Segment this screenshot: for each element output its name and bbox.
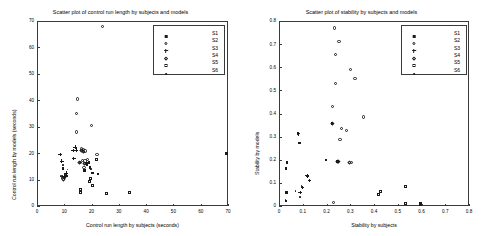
- y-axis-tick: [279, 90, 282, 91]
- data-point-s2: [349, 68, 352, 71]
- data-point-s5: [377, 193, 380, 196]
- y-axis-tick: [37, 127, 40, 128]
- y-axis-tick-label: 10: [13, 177, 34, 182]
- x-axis-label: Control run length by subjects (seconds): [37, 222, 228, 228]
- data-point-s2: [334, 82, 337, 85]
- x-axis-tick: [398, 204, 399, 207]
- x-axis-tick: [445, 204, 446, 207]
- data-point-s1: [62, 167, 65, 170]
- figure-window: Scatter plot of control run length by su…: [0, 0, 482, 236]
- x-axis-tick: [201, 204, 202, 207]
- marker-glyph: [413, 73, 415, 75]
- legend-item-s6: S6: [402, 66, 466, 74]
- data-point-s5: [79, 191, 82, 194]
- x-axis-tick-label: 50: [159, 209, 187, 214]
- data-point-s2: [101, 25, 104, 28]
- legend-label: S2: [212, 37, 218, 43]
- data-point-s3: [60, 159, 64, 163]
- data-point-s2: [331, 105, 334, 108]
- x-axis-label: Stability by subjects: [279, 222, 469, 228]
- chart-control-run-length: Scatter plot of control run length by su…: [0, 0, 241, 236]
- data-point-s3: [305, 174, 309, 178]
- data-point-s1: [91, 172, 94, 175]
- data-point-s3: [308, 179, 312, 183]
- data-point-s1: [83, 169, 86, 172]
- x-axis-tick: [92, 204, 93, 207]
- data-point-s6: [295, 190, 297, 192]
- data-point-s5: [95, 158, 98, 161]
- data-point-s2: [353, 77, 356, 80]
- x-axis-tick: [374, 204, 375, 207]
- x-axis-tick-label: 70: [214, 209, 242, 214]
- data-point-s5: [128, 191, 131, 194]
- y-axis-tick: [37, 100, 40, 101]
- data-point-s1: [97, 173, 100, 176]
- legend-label: S2: [454, 37, 460, 43]
- x-axis-tick: [469, 204, 470, 207]
- y-axis-tick: [279, 21, 282, 22]
- y-axis-tick-label: 0: [255, 203, 276, 208]
- y-axis-tick-label: 0.1: [255, 180, 276, 185]
- y-axis-tick: [279, 137, 282, 138]
- legend-label: S6: [212, 67, 218, 73]
- data-point-s6: [285, 199, 287, 201]
- chart-title: Scatter plot of control run length by su…: [0, 9, 241, 15]
- x-axis-tick: [64, 204, 65, 207]
- data-point-s5: [105, 192, 108, 195]
- y-axis-tick: [37, 21, 40, 22]
- data-point-s5: [91, 184, 94, 187]
- x-axis-tick-label: 0: [23, 209, 51, 214]
- legend-label: S1: [212, 30, 218, 36]
- x-axis-tick: [173, 204, 174, 207]
- legend-label: S5: [454, 59, 460, 65]
- chart-title: Scatter plot of stability by subjects an…: [241, 9, 482, 15]
- y-axis-tick: [279, 160, 282, 161]
- data-point-s2: [76, 97, 79, 100]
- marker-glyph: [165, 73, 167, 75]
- data-point-s6: [298, 142, 300, 144]
- data-point-s2: [95, 153, 98, 156]
- data-point-s3: [297, 132, 301, 136]
- x-axis-tick-label: 10: [50, 209, 78, 214]
- y-axis-tick-label: 0.4: [255, 111, 276, 116]
- x-axis-tick-label: 60: [187, 209, 215, 214]
- y-axis-tick: [37, 47, 40, 48]
- legend-marker-dot-icon: [413, 61, 415, 79]
- x-axis-tick-label: 40: [132, 209, 160, 214]
- legend-label: S1: [454, 30, 460, 36]
- legend: S1S2S3S4S5S6: [153, 25, 225, 75]
- data-point-s1: [325, 159, 328, 162]
- y-axis-tick: [279, 44, 282, 45]
- y-axis-tick-label: 0.8: [255, 18, 276, 23]
- legend-item-s6: S6: [154, 66, 224, 74]
- legend-marker-dot-icon: [165, 61, 167, 79]
- data-point-s1: [225, 152, 228, 155]
- y-axis-tick-label: 70: [13, 18, 34, 23]
- y-axis-tick-label: 60: [13, 45, 34, 50]
- data-point-s5: [404, 185, 407, 188]
- y-axis-tick: [279, 67, 282, 68]
- x-axis-tick-label: 0.8: [455, 209, 482, 214]
- y-axis-tick-label: 30: [13, 124, 34, 129]
- x-axis-tick: [228, 204, 229, 207]
- chart-stability: Scatter plot of stability by subjects an…: [241, 0, 482, 236]
- data-point-s6: [299, 196, 301, 198]
- y-axis-tick: [37, 74, 40, 75]
- x-axis-tick-label: 20: [78, 209, 106, 214]
- data-point-s3: [74, 148, 78, 152]
- y-axis-tick: [37, 180, 40, 181]
- legend-label: S6: [454, 67, 460, 73]
- data-point-s6: [61, 177, 63, 179]
- data-point-s3: [298, 191, 302, 195]
- y-axis-tick: [37, 153, 40, 154]
- y-axis-tick: [37, 206, 40, 207]
- data-point-s6: [90, 168, 92, 170]
- data-point-s5: [404, 202, 407, 205]
- y-axis-tick-label: 40: [13, 98, 34, 103]
- data-point-s6: [62, 164, 64, 166]
- data-point-s2: [82, 166, 85, 169]
- data-point-s3: [72, 157, 76, 161]
- legend-label: S5: [212, 59, 218, 65]
- data-point-s2: [340, 127, 343, 130]
- legend-label: S4: [212, 52, 218, 58]
